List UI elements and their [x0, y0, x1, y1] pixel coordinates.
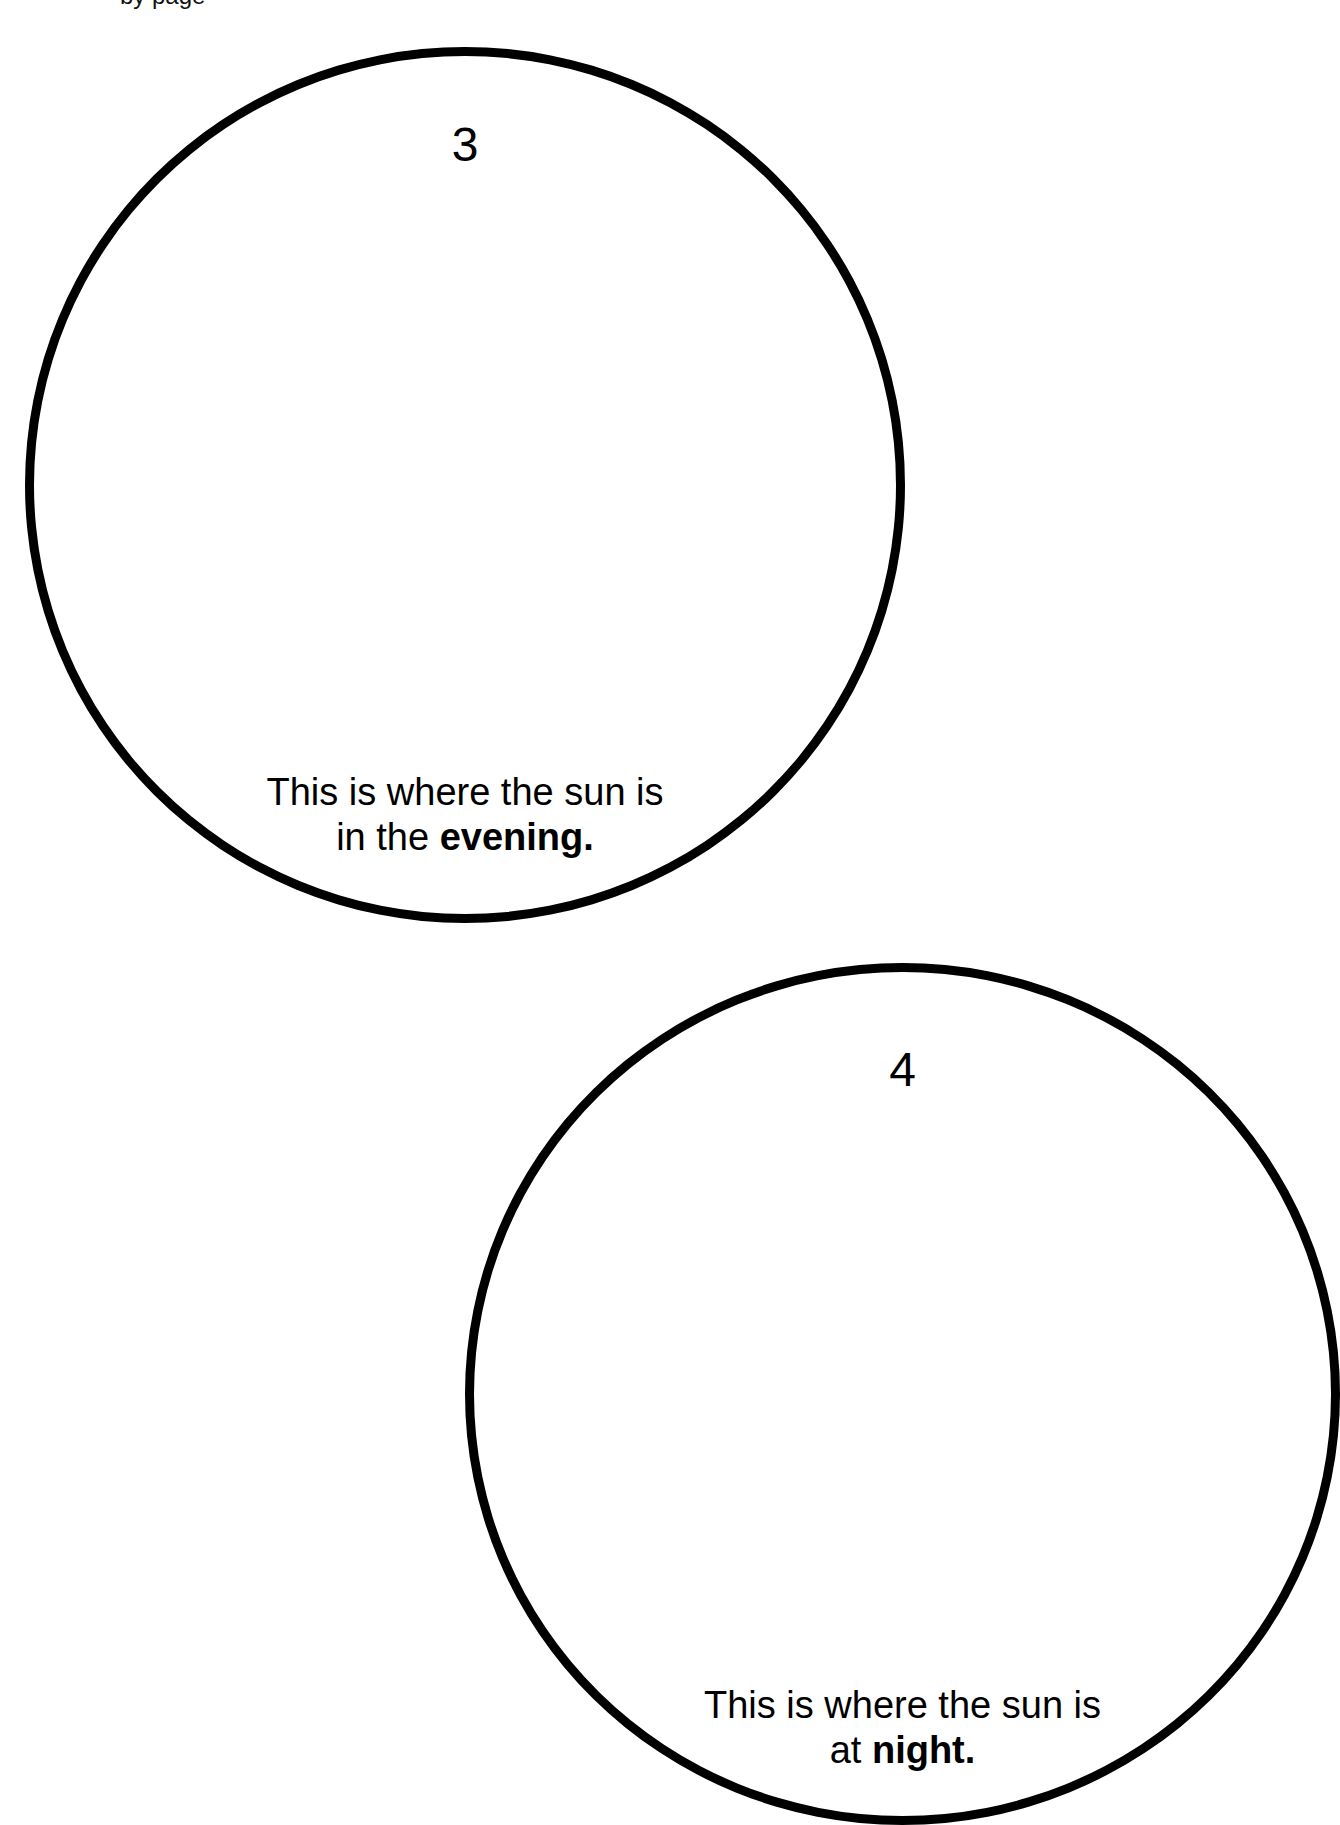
caption-time-of-day: night.	[872, 1729, 975, 1771]
caption-line-1: This is where the sun is	[474, 1683, 1331, 1728]
circle-caption: This is where the sun is in the evening.	[34, 770, 896, 860]
sun-position-circle-night: 4 This is where the sun is at night.	[465, 963, 1340, 1825]
cropped-header-text: by page	[120, 0, 205, 12]
caption-time-of-day: evening.	[440, 816, 594, 858]
caption-line-1: This is where the sun is	[34, 770, 896, 815]
caption-prefix: at	[830, 1729, 872, 1771]
circle-number: 3	[34, 121, 896, 169]
sun-position-circle-evening: 3 This is where the sun is in the evenin…	[25, 47, 905, 923]
circle-caption: This is where the sun is at night.	[474, 1683, 1331, 1773]
caption-line-2: in the evening.	[34, 815, 896, 860]
circle-number: 4	[474, 1046, 1331, 1094]
caption-line-2: at night.	[474, 1728, 1331, 1773]
caption-prefix: in the	[336, 816, 440, 858]
